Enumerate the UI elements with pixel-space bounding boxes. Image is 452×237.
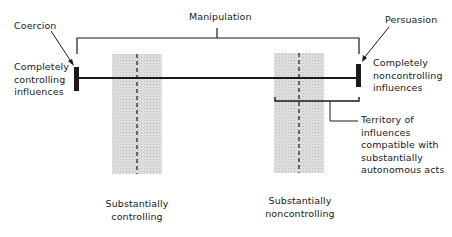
- right-end-description: Completely noncontrolling influences: [373, 57, 443, 95]
- left-end-line: controlling: [14, 74, 64, 87]
- territory-leader: [330, 101, 358, 121]
- right-end-bar: [356, 64, 361, 87]
- left-end-bar: [74, 67, 79, 91]
- zone-noncontrolling-line: noncontrolling: [262, 208, 338, 221]
- zone-noncontrolling-line: Substantially: [262, 195, 338, 208]
- zone-controlling-label: Substantially controlling: [102, 198, 172, 223]
- right-end-line: Completely: [373, 57, 443, 70]
- left-end-line: influences: [14, 86, 64, 99]
- coercion-arrow: [51, 31, 72, 63]
- manipulation-label: Manipulation: [189, 11, 252, 24]
- right-end-line: noncontrolling: [373, 70, 443, 83]
- persuasion-arrowhead: [362, 55, 367, 62]
- diagram-canvas: Manipulation Coercion Completely control…: [0, 0, 452, 237]
- coercion-label: Coercion: [14, 20, 56, 33]
- manipulation-bracket: [77, 38, 359, 54]
- left-end-line: Completely: [14, 61, 64, 74]
- right-end-line: influences: [373, 82, 443, 95]
- zone-controlling-line: controlling: [102, 211, 172, 224]
- persuasion-arrow: [364, 27, 389, 58]
- territory-line: influences: [361, 127, 445, 140]
- territory-line: compatible with: [361, 139, 445, 152]
- territory-label: Territory of influences compatible with …: [361, 114, 445, 177]
- zone-noncontrolling-label: Substantially noncontrolling: [262, 195, 338, 220]
- persuasion-label: Persuasion: [385, 14, 437, 27]
- left-end-description: Completely controlling influences: [14, 61, 64, 99]
- zone-controlling-line: Substantially: [102, 198, 172, 211]
- territory-line: autonomous acts: [361, 164, 445, 177]
- territory-line: Territory of: [361, 114, 445, 127]
- territory-line: substantially: [361, 152, 445, 165]
